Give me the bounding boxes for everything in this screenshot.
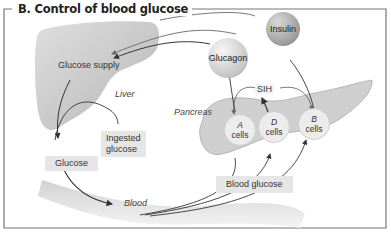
b-cells: B cells [298,108,330,140]
blood-label: Blood [124,198,147,208]
ingested-line2: glucose [106,144,141,155]
blood-glucose-box: Blood glucose [216,176,293,193]
a-cells-label: cells [231,130,248,140]
d-cells-letter: D [271,117,277,127]
sih-label: SIH [255,84,274,94]
d-cells: D cells [258,111,290,143]
blood-glucose-diagram: B. Control of blood glucose Glucagon Ins… [0,0,391,234]
glucagon-hormone: Glucagon [208,38,248,78]
ingested-glucose-box: Ingested glucose [101,131,146,157]
glucagon-label: Glucagon [209,53,248,63]
insulin-label: Insulin [270,24,296,34]
a-cells: A cells [224,114,256,146]
ingested-line1: Ingested [106,133,141,144]
insulin-hormone: Insulin [266,12,300,46]
liver-label: Liver [115,89,135,99]
glucose-supply-label: Glucose supply [58,60,120,70]
figure-title: B. Control of blood glucose [14,2,192,16]
pancreas-label: Pancreas [174,107,212,117]
b-cells-label: cells [305,124,322,134]
liver-shape [35,21,159,130]
glucose-box: Glucose [45,156,98,171]
diagram-graphics [0,0,391,234]
b-cells-letter: B [311,114,317,124]
d-cells-label: cells [265,127,282,137]
a-cells-letter: A [237,120,243,130]
